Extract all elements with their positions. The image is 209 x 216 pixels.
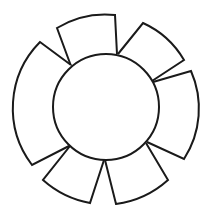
petal-circle-diagram bbox=[0, 0, 209, 216]
center-circle bbox=[53, 54, 159, 160]
